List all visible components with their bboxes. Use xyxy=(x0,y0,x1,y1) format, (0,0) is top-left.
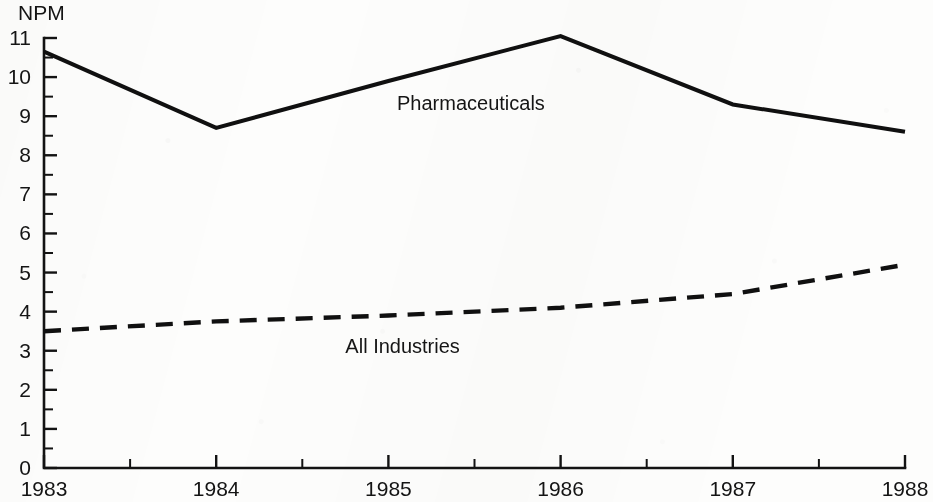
chart-series xyxy=(44,36,905,331)
x-tick-label: 1986 xyxy=(537,477,584,500)
y-tick-label: 3 xyxy=(19,339,31,362)
chart-figure: 01234567891011 198319841985198619871988 … xyxy=(0,0,933,502)
x-tick-label: 1987 xyxy=(709,477,756,500)
series-annotations: PharmaceuticalsAll Industries xyxy=(345,92,545,356)
y-tick-label: 1 xyxy=(19,417,31,440)
y-axis-unit-label: NPM xyxy=(18,1,65,24)
series-line xyxy=(44,265,905,331)
line-chart: 01234567891011 198319841985198619871988 … xyxy=(0,0,933,502)
series-annotation: All Industries xyxy=(345,335,460,357)
x-tick-label: 1984 xyxy=(193,477,240,500)
y-tick-label: 11 xyxy=(9,26,31,49)
x-axis-tick-labels: 198319841985198619871988 xyxy=(21,477,929,500)
y-tick-label: 5 xyxy=(19,261,31,284)
x-tick-label: 1988 xyxy=(882,477,929,500)
y-tick-label: 10 xyxy=(8,65,31,88)
y-tick-label: 6 xyxy=(19,221,31,244)
y-tick-label: 0 xyxy=(19,456,31,479)
x-tick-label: 1983 xyxy=(21,477,68,500)
y-tick-label: 8 xyxy=(19,143,31,166)
y-axis-tick-labels: 01234567891011 xyxy=(8,26,32,479)
series-annotation: Pharmaceuticals xyxy=(397,92,545,114)
series-line xyxy=(44,36,905,132)
y-tick-label: 7 xyxy=(19,182,31,205)
y-tick-label: 4 xyxy=(19,300,31,323)
y-tick-label: 9 xyxy=(19,104,31,127)
x-tick-label: 1985 xyxy=(365,477,412,500)
y-tick-label: 2 xyxy=(19,378,31,401)
